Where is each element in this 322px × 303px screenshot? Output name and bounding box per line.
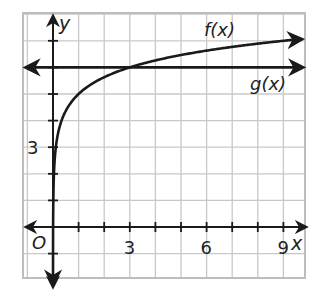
axes [26,16,306,287]
y-axis-label: y [58,12,71,34]
series-f-label: f(x) [204,19,235,40]
x-tick-label: 9 [277,237,288,258]
x-tick-label: 3 [124,237,135,258]
x-tick-label: 6 [201,237,212,258]
grid-lines [23,13,305,278]
series-g-label: g(x) [250,73,286,94]
axis-labels: yxO3693f(x)g(x) [27,12,303,258]
x-axis-label: x [290,232,303,254]
origin-label: O [32,232,46,253]
graph-canvas: yxO3693f(x)g(x) [0,0,322,303]
y-tick-label: 3 [27,137,38,158]
plot-frame [23,13,305,278]
